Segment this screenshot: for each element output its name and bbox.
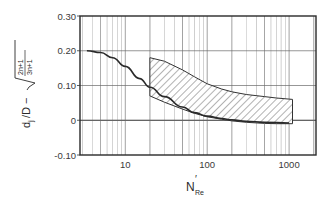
x-label-main: N [186, 180, 195, 194]
y-tick-label: -0.10 [54, 150, 76, 161]
y-tick-label: 0.10 [58, 80, 77, 91]
y-tick-label: 0.30 [58, 11, 77, 22]
x-label-prime: ′ [195, 174, 197, 185]
y-label-over-d: /D − [20, 98, 32, 118]
chart: 0.300.200.100-0.10 101001000 N ′ Re d j … [0, 0, 330, 202]
y-label-frac-num: 2n+1 [17, 59, 24, 75]
x-axis-ticks: 101001000 [120, 159, 300, 170]
x-tick-label: 10 [120, 159, 131, 170]
y-tick-label: 0 [71, 115, 76, 126]
x-label-sub: Re [195, 189, 204, 196]
y-axis-label: d j /D − 2n+1 3n+1 [15, 40, 35, 128]
y-label-frac-den: 3n+1 [26, 59, 33, 75]
x-axis-label: N ′ Re [186, 174, 204, 196]
y-tick-label: 0.20 [58, 45, 77, 56]
y-axis-ticks: 0.300.200.100-0.10 [54, 11, 80, 161]
x-tick-label: 100 [199, 159, 215, 170]
y-label-j: j [26, 120, 35, 123]
x-tick-label: 1000 [279, 159, 300, 170]
